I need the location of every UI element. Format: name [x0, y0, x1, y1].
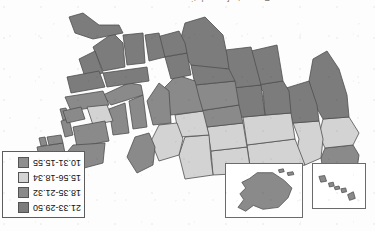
choropleth-figure: 21.33-29.50 18.35-21.32 15.56-18.34 10.3… — [0, 0, 375, 231]
legend-swatch-class-4 — [18, 202, 29, 213]
region-arkansas[interactable] — [165, 53, 191, 79]
region-wyoming[interactable] — [243, 113, 295, 145]
alaska-inset-svg — [226, 164, 302, 217]
region-indiana[interactable] — [129, 95, 147, 129]
region-rhode-island[interactable] — [39, 137, 47, 146]
alaska-aleutian-2 — [278, 169, 284, 173]
hawaii-island-hawaii — [319, 175, 327, 182]
region-wisconsin[interactable] — [151, 123, 183, 161]
legend-item-label: 10.31-15.55 — [33, 158, 81, 167]
hawaii-island-kauai — [348, 192, 356, 201]
hawaii-island-molokai — [334, 186, 340, 190]
region-alabama[interactable] — [123, 33, 145, 65]
region-connecticut[interactable] — [47, 135, 63, 145]
alaska-mainland — [238, 173, 292, 212]
hawaii-inset[interactable] — [312, 163, 366, 209]
region-south-dakota[interactable] — [207, 123, 247, 151]
hawaii-island-maui — [328, 182, 334, 187]
hawaii-island-oahu — [341, 188, 347, 193]
legend-swatch-class-3 — [18, 187, 29, 198]
alaska-inset[interactable] — [225, 163, 303, 218]
legend[interactable]: 21.33-29.50 18.35-21.32 15.56-18.34 10.3… — [2, 151, 85, 218]
legend-item[interactable]: 15.56-18.34 — [5, 170, 81, 185]
region-illinois[interactable] — [147, 83, 171, 125]
caption-text: Percent of population . . . . . . . . . … — [8, 0, 270, 3]
region-oregon[interactable] — [319, 117, 359, 148]
region-michigan[interactable] — [127, 133, 155, 173]
legend-item-label: 21.33-29.50 — [33, 203, 81, 212]
legend-swatch-class-2 — [18, 172, 29, 183]
hawaii-inset-svg — [313, 164, 365, 208]
alaska-aleutian-1 — [287, 172, 294, 176]
legend-item-label: 18.35-21.32 — [33, 188, 81, 197]
caption-strip: Percent of population . . . . . . . . . … — [0, 0, 375, 9]
legend-item[interactable]: 21.33-29.50 — [5, 200, 81, 215]
legend-swatch-class-1 — [18, 157, 29, 168]
legend-item[interactable]: 10.31-15.55 — [5, 155, 81, 170]
region-north-carolina[interactable] — [67, 71, 105, 93]
region-minnesota[interactable] — [179, 135, 213, 179]
legend-item-label: 15.56-18.34 — [33, 173, 81, 182]
legend-item[interactable]: 18.35-21.32 — [5, 185, 81, 200]
